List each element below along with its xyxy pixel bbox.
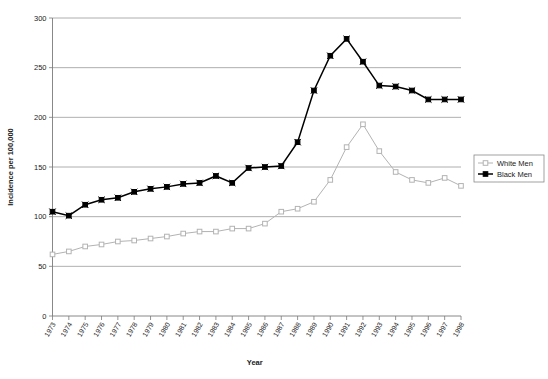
- y-tick-label: 200: [34, 113, 47, 122]
- legend-marker-1: [483, 172, 488, 177]
- x-tick-label: 1991: [337, 321, 351, 338]
- data-point-white-men-1977: [116, 239, 121, 244]
- series-line-white-men: [53, 124, 462, 254]
- legend-marker-0: [483, 161, 488, 166]
- data-point-white-men-1998: [459, 184, 464, 189]
- data-point-white-men-1997: [442, 176, 447, 181]
- x-tick-label: 1980: [157, 321, 171, 338]
- x-tick-label: 1985: [239, 321, 253, 338]
- x-tick-label: 1974: [59, 321, 73, 338]
- data-point-white-men-1996: [426, 181, 431, 186]
- data-point-white-men-1976: [99, 242, 104, 247]
- y-tick-label: 300: [34, 14, 47, 23]
- x-tick-label: 1994: [386, 321, 400, 338]
- x-tick-label: 1977: [108, 321, 122, 338]
- line-chart: 0501001502002503001973197419751976197719…: [0, 0, 548, 379]
- x-tick-label: 1976: [92, 321, 106, 338]
- x-tick-label: 1983: [206, 321, 220, 338]
- y-tick-label: 50: [38, 262, 46, 271]
- data-point-white-men-1985: [246, 226, 251, 231]
- x-tick-label: 1993: [370, 321, 384, 338]
- chart-container: 0501001502002503001973197419751976197719…: [0, 0, 548, 379]
- data-point-white-men-1979: [148, 236, 153, 241]
- data-point-white-men-1987: [279, 209, 284, 214]
- data-point-white-men-1991: [344, 145, 349, 150]
- data-point-white-men-1974: [67, 249, 72, 254]
- series-line-black-men: [53, 39, 462, 216]
- x-tick-label: 1981: [174, 321, 188, 338]
- x-axis-title: Year: [247, 358, 263, 367]
- x-tick-label: 1998: [452, 321, 466, 338]
- x-tick-label: 1973: [43, 321, 57, 338]
- x-tick-label: 1989: [304, 321, 318, 338]
- x-tick-label: 1990: [321, 321, 335, 338]
- x-tick-label: 1986: [255, 321, 269, 338]
- data-point-white-men-1975: [83, 244, 88, 249]
- x-tick-label: 1978: [125, 321, 139, 338]
- data-point-white-men-1982: [197, 229, 202, 234]
- y-tick-label: 150: [34, 163, 47, 172]
- data-point-white-men-1983: [214, 229, 219, 234]
- x-tick-label: 1982: [190, 321, 204, 338]
- data-point-white-men-1992: [361, 122, 366, 127]
- x-tick-label: 1987: [272, 321, 286, 338]
- data-point-white-men-1981: [181, 231, 186, 236]
- data-point-white-men-1980: [165, 234, 170, 239]
- x-tick-label: 1979: [141, 321, 155, 338]
- legend-label-black-men: Black Men: [497, 170, 532, 179]
- x-tick-label: 1996: [419, 321, 433, 338]
- data-point-white-men-1978: [132, 238, 137, 243]
- x-tick-label: 1997: [435, 321, 449, 338]
- data-point-white-men-1986: [263, 221, 268, 226]
- x-tick-label: 1975: [76, 321, 90, 338]
- x-tick-label: 1995: [402, 321, 416, 338]
- data-point-white-men-1984: [230, 226, 235, 231]
- y-axis-title: Incidence per 100,000: [6, 128, 15, 206]
- y-tick-label: 100: [34, 212, 47, 221]
- data-point-white-men-1994: [393, 170, 398, 175]
- legend-label-white-men: White Men: [497, 159, 533, 168]
- y-tick-label: 250: [34, 63, 47, 72]
- x-tick-label: 1992: [353, 321, 367, 338]
- data-point-white-men-1973: [50, 252, 55, 257]
- data-point-white-men-1989: [312, 199, 317, 204]
- data-point-white-men-1993: [377, 149, 382, 154]
- x-tick-label: 1984: [223, 321, 237, 338]
- data-point-white-men-1990: [328, 178, 333, 183]
- data-point-white-men-1995: [410, 178, 415, 183]
- y-tick-label: 0: [42, 312, 46, 321]
- data-point-white-men-1988: [295, 206, 300, 211]
- x-tick-label: 1988: [288, 321, 302, 338]
